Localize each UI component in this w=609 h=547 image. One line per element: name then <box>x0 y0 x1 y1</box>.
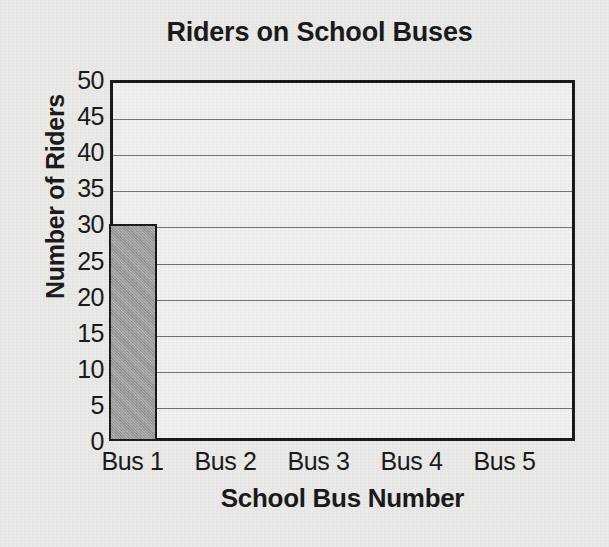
x-axis-tick-label: Bus 5 <box>474 447 536 476</box>
x-axis-title: School Bus Number <box>110 483 575 514</box>
x-axis-tick-label: Bus 2 <box>195 447 257 476</box>
x-axis-tick-labels: Bus 1Bus 2Bus 3Bus 4Bus 5 <box>110 447 575 479</box>
bar-chart-figure: Riders on School Buses Number of Riders … <box>0 0 609 547</box>
y-axis-tick-label: 50 <box>58 68 104 93</box>
bar <box>109 224 157 441</box>
x-axis-tick-label: Bus 1 <box>102 447 164 476</box>
y-axis-tick-label: 45 <box>58 104 104 129</box>
x-axis-tick-label: Bus 4 <box>381 447 443 476</box>
y-axis-tick-label: 10 <box>58 356 104 381</box>
bars-layer <box>110 80 575 441</box>
y-axis-tick-label: 20 <box>58 284 104 309</box>
y-axis-tick-labels: 05101520253035404550 <box>58 80 104 441</box>
x-axis-tick-label: Bus 3 <box>288 447 350 476</box>
y-axis-tick-label: 5 <box>58 392 104 417</box>
chart-title: Riders on School Buses <box>0 17 609 48</box>
y-axis-tick-label: 40 <box>58 140 104 165</box>
y-axis-tick-label: 30 <box>58 212 104 237</box>
y-axis-tick-label: 25 <box>58 248 104 273</box>
y-axis-tick-label: 15 <box>58 320 104 345</box>
y-axis-tick-label: 35 <box>58 176 104 201</box>
y-axis-tick-label: 0 <box>58 429 104 454</box>
